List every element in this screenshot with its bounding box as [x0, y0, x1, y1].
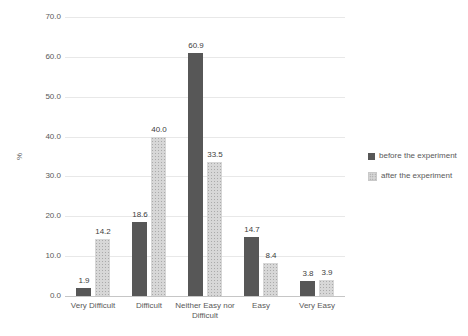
bar-before [132, 222, 147, 296]
bar-before [300, 281, 315, 296]
bar-chart: % before the experimentafter the experim… [0, 0, 468, 336]
bar-after [319, 280, 334, 296]
y-axis-title: % [15, 152, 24, 159]
value-label: 18.6 [132, 210, 148, 219]
y-tick-label: 60.0 [31, 52, 61, 62]
legend-marker-before [368, 153, 375, 160]
value-label: 1.9 [78, 276, 89, 285]
bar-after [207, 162, 222, 296]
x-axis-line [65, 296, 345, 297]
legend-label: before the experiment [379, 151, 457, 161]
gridline [65, 176, 345, 177]
x-category-label: Difficult [118, 301, 180, 311]
value-label: 8.4 [265, 251, 276, 260]
y-tick-label: 10.0 [31, 251, 61, 261]
value-label: 33.5 [207, 150, 223, 159]
legend-marker-after [368, 172, 377, 181]
gridline [65, 137, 345, 138]
bar-before [244, 237, 259, 296]
bar-before [76, 288, 91, 296]
bar-before [188, 53, 203, 296]
bar-after [263, 263, 278, 296]
legend-label: after the experiment [381, 171, 452, 181]
y-tick-label: 30.0 [31, 171, 61, 181]
gridline [65, 97, 345, 98]
value-label: 3.9 [321, 268, 332, 277]
y-tick-label: 50.0 [31, 92, 61, 102]
y-tick-label: 0.0 [31, 291, 61, 301]
x-category-label: Easy [230, 301, 292, 311]
legend: before the experimentafter the experimen… [368, 151, 457, 191]
value-label: 3.8 [302, 269, 313, 278]
legend-item: after the experiment [368, 171, 457, 181]
x-category-label: Very Difficult [62, 301, 124, 311]
gridline [65, 216, 345, 217]
bar-after [151, 137, 166, 296]
gridline [65, 57, 345, 58]
x-category-label: Neither Easy nor Difficult [174, 301, 236, 321]
gridline [65, 17, 345, 18]
value-label: 40.0 [151, 125, 167, 134]
value-label: 14.7 [244, 225, 260, 234]
value-label: 60.9 [188, 41, 204, 50]
y-tick-label: 70.0 [31, 12, 61, 22]
legend-item: before the experiment [368, 151, 457, 161]
bar-after [95, 239, 110, 296]
y-tick-label: 40.0 [31, 132, 61, 142]
value-label: 14.2 [95, 227, 111, 236]
y-tick-label: 20.0 [31, 211, 61, 221]
x-category-label: Very Easy [286, 301, 348, 311]
